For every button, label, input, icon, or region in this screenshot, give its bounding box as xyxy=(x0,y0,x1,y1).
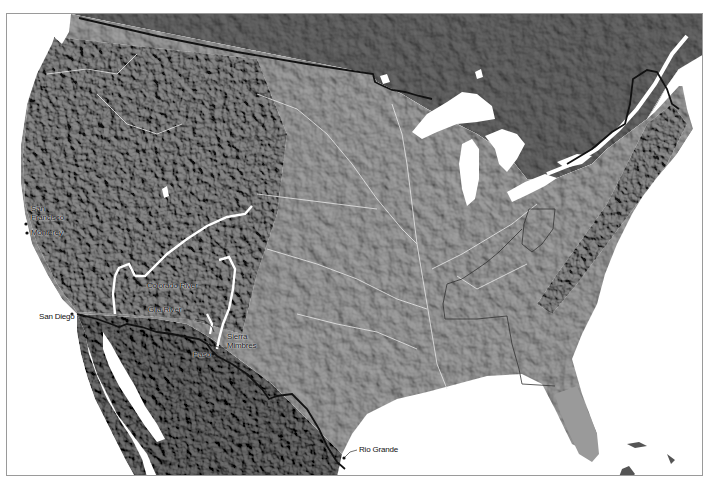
label-gila-river: Gila River xyxy=(148,305,181,314)
label-colorado-river: Colorado River xyxy=(147,281,198,290)
map-frame: San Francisco Monterey San Diego Colorad… xyxy=(6,13,703,476)
paso-marker xyxy=(211,352,214,355)
label-san-diego: San Diego xyxy=(39,312,75,321)
label-sierra-mimbres: Sierra Mimbres xyxy=(227,332,256,350)
label-rio-grande: Rio Grande xyxy=(359,445,398,454)
san-francisco-marker xyxy=(24,222,27,225)
monterey-marker xyxy=(25,231,28,234)
label-san-francisco: San Francisco xyxy=(31,204,64,222)
relief-map xyxy=(7,14,703,476)
label-monterey: Monterey xyxy=(31,228,63,237)
label-paso: Paso xyxy=(193,350,210,359)
